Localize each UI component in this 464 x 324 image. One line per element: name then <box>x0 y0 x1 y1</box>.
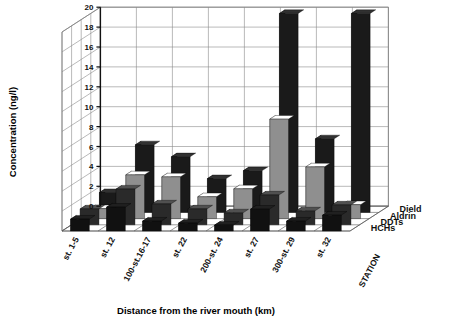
category-label-5: st. 27 <box>242 235 261 259</box>
bar-front-face <box>143 221 162 231</box>
category-label-4: 200-st. 24 <box>198 235 225 274</box>
legend-label-hchs: HCHs <box>371 223 396 233</box>
category-labels: st. 1-5st. 12100-st.16-17st. 22200-st. 2… <box>61 235 333 283</box>
y-tick-label: 18 <box>84 23 93 32</box>
y-tick-label: 6 <box>89 143 94 152</box>
chart-figure: 02468101214161820 st. 1-5st. 12100-st.16… <box>0 0 464 324</box>
bar-front-face <box>323 215 342 231</box>
category-label-0: st. 1-5 <box>61 235 81 262</box>
y-tick-label: 8 <box>89 123 94 132</box>
bar-front-face <box>107 207 126 231</box>
bar-front-face <box>71 219 90 231</box>
x-axis-title: Distance from the river mouth (km) <box>117 305 275 316</box>
y-tick-label: 10 <box>84 103 93 112</box>
y-tick-label: 2 <box>89 182 94 191</box>
category-label-7: st. 32 <box>314 235 333 259</box>
category-label-2: 100-st.16-17 <box>121 235 153 283</box>
category-label-6: 300-st. 29 <box>270 235 297 274</box>
category-label-3: st. 22 <box>170 235 189 259</box>
y-tick-label: 4 <box>89 162 94 171</box>
y-tick-label: 14 <box>84 63 93 72</box>
y-tick-label: 20 <box>84 3 93 12</box>
bar-front-face <box>351 13 370 212</box>
bar-front-face <box>251 209 270 231</box>
y-axis-title: Concentration (ng/l) <box>7 87 18 177</box>
y-tick-label: 0 <box>89 202 94 211</box>
y-tick-label: 12 <box>84 83 93 92</box>
bar-front-face <box>215 225 234 231</box>
bar-front-face <box>287 221 306 231</box>
y-tick-label: 16 <box>84 43 93 52</box>
z-axis-title: STATION <box>356 252 382 289</box>
category-label-1: st. 12 <box>98 235 117 259</box>
chart-canvas: 02468101214161820 st. 1-5st. 12100-st.16… <box>0 0 464 324</box>
bar-front-face <box>179 223 198 231</box>
left-wall <box>62 7 100 231</box>
